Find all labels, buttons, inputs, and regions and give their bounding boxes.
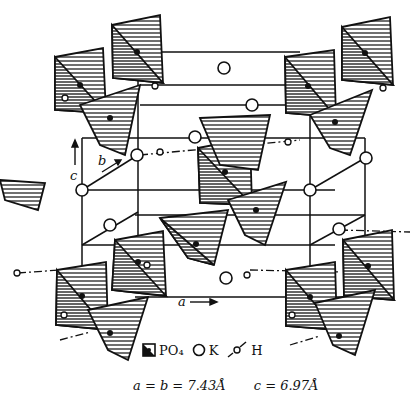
lattice-param-ab: a = b = 7.43Å xyxy=(133,378,226,393)
legend: PO₄ K H xyxy=(142,341,263,359)
b-axis-label: b xyxy=(98,153,106,168)
legend-label-k: K xyxy=(209,343,219,358)
legend-item-k: K xyxy=(192,343,219,358)
open-circle-icon xyxy=(192,343,206,357)
legend-item-po4: PO₄ xyxy=(142,343,184,358)
a-axis-label: a xyxy=(178,294,186,309)
c-axis-label: c xyxy=(70,168,78,183)
po4-tetrahedra xyxy=(0,15,394,360)
lattice-param-c: c = 6.97Å xyxy=(254,378,319,393)
tetrahedron-icon xyxy=(142,343,156,357)
legend-item-h: H xyxy=(226,341,262,359)
dash-dot-bond-icon xyxy=(226,341,248,359)
legend-label-h: H xyxy=(251,343,262,358)
lattice-parameters-caption: a = b = 7.43Å c = 6.97Å xyxy=(133,378,319,393)
legend-label-po4: PO₄ xyxy=(159,343,184,358)
